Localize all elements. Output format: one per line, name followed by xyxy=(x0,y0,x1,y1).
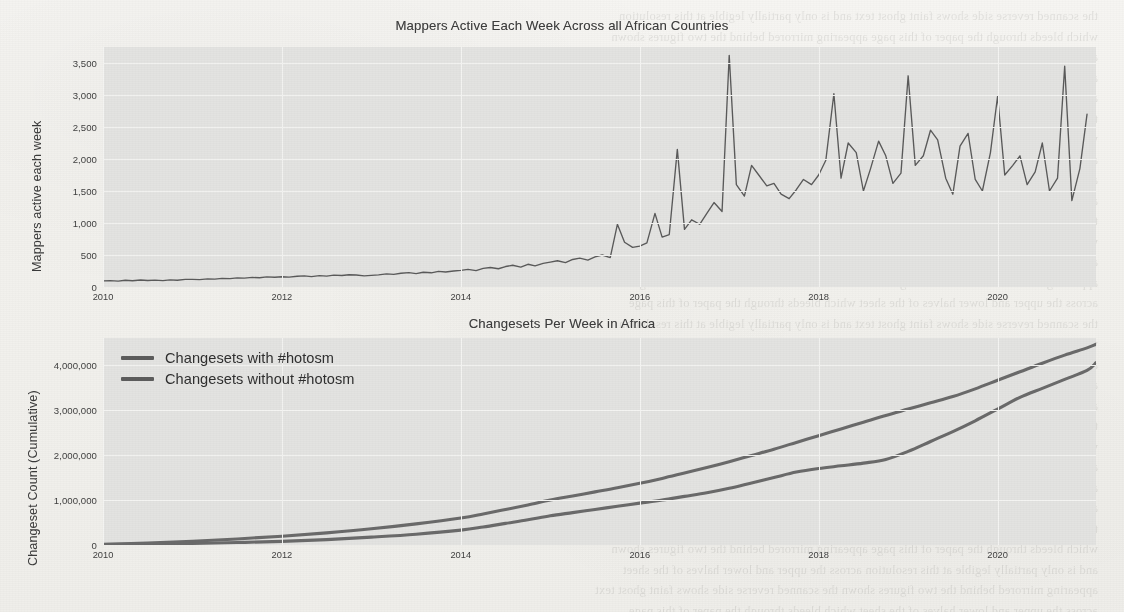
chart2-y-ticks: 01,000,0002,000,0003,000,0004,000,000 xyxy=(22,338,97,545)
x-tick-label: 2016 xyxy=(629,292,650,302)
chart1-plot-area xyxy=(103,47,1096,287)
legend-label-with-hotosm: Changesets with #hotosm xyxy=(165,350,334,366)
x-tick-label: 2018 xyxy=(808,550,829,560)
chart1-title: Mappers Active Each Week Across all Afri… xyxy=(0,18,1124,33)
chart1-x-ticks: 201020122014201620182020 xyxy=(103,290,1096,306)
chart1-line-mappers xyxy=(103,55,1087,281)
y-tick-label: 1,000,000 xyxy=(54,495,97,506)
figure-changesets-per-week: Changesets Per Week in Africa Changeset … xyxy=(0,316,1124,606)
x-tick-label: 2014 xyxy=(450,292,471,302)
x-tick-label: 2012 xyxy=(272,550,293,560)
x-tick-label: 2012 xyxy=(272,292,293,302)
y-tick-label: 1,500 xyxy=(73,186,97,197)
chart1-plot-canvas xyxy=(103,47,1096,287)
chart1-series-svg xyxy=(103,47,1096,287)
y-tick-label: 1,000 xyxy=(73,218,97,229)
x-tick-label: 2010 xyxy=(93,292,114,302)
y-tick-label: 2,500 xyxy=(73,122,97,133)
x-tick-label: 2016 xyxy=(629,550,650,560)
chart2-legend: Changesets with #hotosm Changesets witho… xyxy=(121,350,355,392)
chart1-y-ticks: 05001,0001,5002,0002,5003,0003,500 xyxy=(40,47,97,287)
x-tick-label: 2020 xyxy=(987,292,1008,302)
chart2-x-ticks: 201020122014201620182020 xyxy=(103,548,1096,564)
y-tick-label: 2,000 xyxy=(73,154,97,165)
figure-mappers-active: Mappers Active Each Week Across all Afri… xyxy=(0,10,1124,310)
y-tick-label: 3,000 xyxy=(73,90,97,101)
y-tick-label: 3,000,000 xyxy=(54,405,97,416)
y-tick-label: 0 xyxy=(92,282,97,293)
legend-swatch-without-hotosm xyxy=(121,377,154,380)
x-tick-label: 2010 xyxy=(93,550,114,560)
x-tick-label: 2014 xyxy=(450,550,471,560)
legend-item-with-hotosm[interactable]: Changesets with #hotosm xyxy=(121,350,355,366)
y-tick-label: 2,000,000 xyxy=(54,450,97,461)
y-tick-label: 4,000,000 xyxy=(54,360,97,371)
legend-swatch-with-hotosm xyxy=(121,356,154,359)
x-tick-label: 2020 xyxy=(987,550,1008,560)
chart2-title: Changesets Per Week in Africa xyxy=(0,316,1124,331)
y-tick-label: 0 xyxy=(92,540,97,551)
legend-label-without-hotosm: Changesets without #hotosm xyxy=(165,371,355,387)
legend-item-without-hotosm[interactable]: Changesets without #hotosm xyxy=(121,371,355,387)
y-tick-label: 500 xyxy=(81,250,97,261)
y-tick-label: 3,500 xyxy=(73,58,97,69)
x-tick-label: 2018 xyxy=(808,292,829,302)
chart2-plot-canvas: Changesets with #hotosm Changesets witho… xyxy=(103,338,1096,545)
chart2-plot-area: Changesets with #hotosm Changesets witho… xyxy=(103,338,1096,545)
